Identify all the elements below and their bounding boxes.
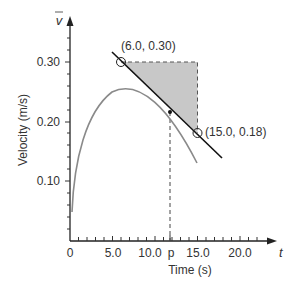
- x-axis-label: Time (s): [168, 263, 212, 277]
- x-tick-label: 20.0: [228, 246, 252, 260]
- x-axis-arrow-icon: [267, 238, 277, 245]
- x-tick-label: 10.0: [138, 246, 162, 260]
- annotation-label: (15.0, 0.18): [205, 125, 266, 139]
- x-tick-label: 5.0: [105, 246, 122, 260]
- y-tick-label: 0.30: [37, 55, 61, 69]
- x-ticks: [79, 235, 258, 241]
- annotation-label: (6.0, 0.30): [121, 39, 176, 53]
- x-tick-label: 0: [67, 246, 74, 260]
- y-ticks: [65, 38, 70, 229]
- tangent-point-dot: [168, 110, 172, 114]
- velocity-time-chart: 0.30 0.20 0.10 0 5.0 10.0 p 15.0 20.0 Ti…: [0, 0, 292, 293]
- y-tick-label: 0.20: [37, 115, 61, 129]
- y-axis-label: Velocity (m/s): [16, 94, 30, 166]
- y-axis-arrow-icon: [67, 16, 74, 26]
- y-axis-symbol: v: [56, 13, 64, 28]
- x-tick-label: 15.0: [186, 246, 210, 260]
- y-tick-label: 0.10: [37, 174, 61, 188]
- x-tick-label: p: [168, 246, 175, 260]
- x-axis-symbol: t: [279, 245, 284, 260]
